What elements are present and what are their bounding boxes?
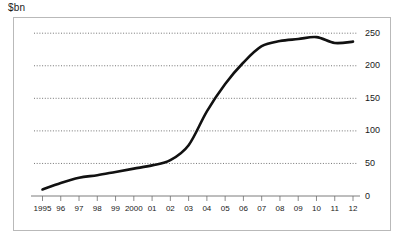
y-tick-label-250: 250 [365,29,380,38]
x-tick-label-2000: 2000 [125,204,143,213]
x-tick-label-09: 09 [294,204,303,213]
x-tick-label-1995: 1995 [34,204,52,213]
x-tick-label-01: 01 [148,204,157,213]
x-tick-label-99: 99 [111,204,120,213]
y-tick-label-200: 200 [365,61,380,70]
x-tick-label-04: 04 [202,204,211,213]
y-tick-label-50: 50 [365,159,375,168]
plot-frame [13,17,391,231]
chart-units-label: $bn [8,2,25,14]
x-tick-label-05: 05 [221,204,230,213]
x-tick-label-96: 96 [56,204,65,213]
x-tick-label-10: 10 [312,204,321,213]
x-tick-label-98: 98 [93,204,102,213]
y-tick-label-150: 150 [365,94,380,103]
x-tick-label-11: 11 [331,204,339,213]
x-tick-label-97: 97 [75,204,84,213]
x-tick-label-03: 03 [184,204,193,213]
chart-figure: $bn 050100150200250 19959697989920000102… [0,0,405,243]
x-tick-label-06: 06 [239,204,248,213]
x-tick-label-02: 02 [166,204,175,213]
y-tick-label-0: 0 [365,192,370,201]
x-tick-label-07: 07 [257,204,266,213]
x-tick-label-08: 08 [275,204,284,213]
x-tick-label-12: 12 [349,204,358,213]
y-tick-label-100: 100 [365,126,380,135]
